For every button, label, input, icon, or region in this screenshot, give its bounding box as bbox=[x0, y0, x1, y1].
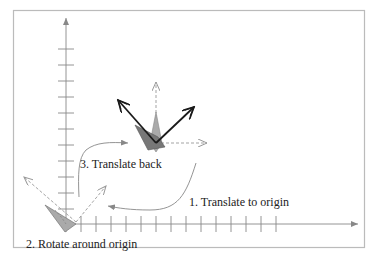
step-2-label: 2. Rotate around origin bbox=[26, 238, 137, 250]
y-axis bbox=[58, 18, 74, 232]
step-1-label: 1. Translate to origin bbox=[189, 196, 289, 208]
step-3-label: 3. Translate back bbox=[80, 158, 162, 170]
diagram-svg bbox=[0, 0, 378, 272]
diagram-canvas: 3. Translate back 1. Translate to origin… bbox=[0, 0, 378, 272]
x-axis bbox=[66, 216, 358, 232]
shape-original bbox=[118, 82, 207, 152]
